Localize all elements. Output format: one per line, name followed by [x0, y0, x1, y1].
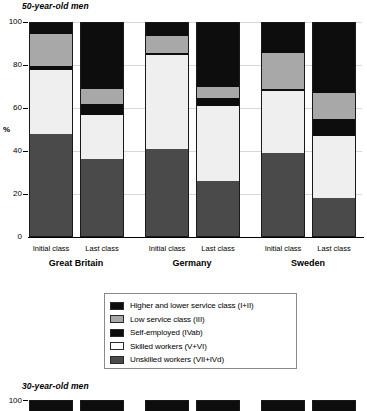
legend-item-unskilled: Unskilled workers (VII+IVd) [110, 353, 296, 366]
legend-swatch-service-high [110, 302, 124, 310]
segment-self-employed [313, 119, 355, 136]
chart-panel-50-year-old-men: 50-year-old men 100 80 60 40 20 0 % [0, 0, 367, 280]
segment-service-low [313, 93, 355, 119]
segment-skilled [146, 55, 188, 149]
ytick-mark-100-panel2 [23, 400, 28, 401]
segment-unskilled [197, 181, 239, 236]
y-axis-label: % [3, 125, 10, 134]
group-label-germany: Germany [132, 258, 252, 268]
legend-swatch-self-employed [110, 329, 124, 337]
segment-service-low [262, 53, 304, 89]
ytick-mark-60 [23, 108, 28, 109]
ytick-label-20: 20 [2, 189, 22, 198]
chart-panel-30-year-old-men: 30-year-old men 100 [0, 378, 367, 411]
plot-area-2 [29, 400, 362, 411]
ytick-label-0: 0 [2, 232, 22, 241]
bar-germany-last-class[interactable] [196, 22, 240, 237]
segment-unskilled [30, 134, 72, 236]
bar2-great-britain-last-class[interactable] [80, 400, 124, 411]
ytick-label-100-panel2: 100 [2, 396, 22, 405]
bar-sweden-initial-class[interactable] [261, 22, 305, 237]
legend-swatch-service-low [110, 315, 124, 323]
segment-service-high [30, 23, 72, 34]
ytick-label-80: 80 [2, 60, 22, 69]
bar2-sweden-last-class[interactable] [312, 400, 356, 411]
segment-unskilled [81, 159, 123, 236]
segment-unskilled [146, 149, 188, 236]
bar-great-britain-initial-class[interactable] [29, 22, 73, 237]
panel-title: 50-year-old men [22, 1, 89, 11]
panel-title-2: 30-year-old men [22, 381, 89, 391]
segment-service-high [313, 23, 355, 93]
bar-great-britain-last-class[interactable] [80, 22, 124, 237]
segment-service-high [146, 23, 188, 36]
segment-skilled [81, 115, 123, 160]
legend-swatch-unskilled [110, 356, 124, 364]
legend-item-skilled: Skilled workers (V+VI) [110, 340, 296, 353]
ytick-mark-100 [23, 22, 28, 23]
bar2-germany-last-class[interactable] [196, 400, 240, 411]
ytick-label-60: 60 [2, 103, 22, 112]
legend-label-service-high: Higher and lower service class (I+II) [130, 301, 254, 310]
ytick-label-100: 100 [2, 17, 22, 26]
xtick-label-de-last: Last class [187, 244, 249, 253]
plot-area [29, 22, 362, 237]
bar2-germany-initial-class[interactable] [145, 400, 189, 411]
legend-item-service-low: Low service class (III) [110, 313, 296, 326]
legend-item-service-high: Higher and lower service class (I+II) [110, 299, 296, 312]
ytick-mark-20 [23, 194, 28, 195]
group-label-sweden: Sweden [248, 258, 367, 268]
segment-service-high [197, 23, 239, 87]
legend-item-self-employed: Self-employed (IVab) [110, 326, 296, 339]
legend-label-self-employed: Self-employed (IVab) [130, 328, 203, 337]
bar-sweden-last-class[interactable] [312, 22, 356, 237]
segment-self-employed [81, 104, 123, 115]
segment-skilled [197, 106, 239, 181]
segment-service-low [30, 34, 72, 66]
segment-service-low [81, 89, 123, 104]
segment-skilled [30, 70, 72, 134]
legend-label-service-low: Low service class (III) [130, 315, 205, 324]
segment-unskilled [313, 198, 355, 236]
segment-self-employed [197, 98, 239, 107]
legend-label-skilled: Skilled workers (V+VI) [130, 342, 207, 351]
group-label-great-britain: Great Britain [16, 258, 136, 268]
segment-service-low [146, 36, 188, 53]
segment-unskilled [262, 153, 304, 236]
legend-swatch-skilled [110, 342, 124, 350]
segment-skilled [262, 91, 304, 153]
xtick-label-se-last: Last class [303, 244, 365, 253]
x-axis-line [28, 237, 364, 238]
segment-service-high [262, 23, 304, 53]
segment-service-high [81, 23, 123, 89]
ytick-mark-40 [23, 151, 28, 152]
segment-service-low [197, 87, 239, 98]
bar2-great-britain-initial-class[interactable] [29, 400, 73, 411]
bar2-sweden-initial-class[interactable] [261, 400, 305, 411]
ytick-label-40: 40 [2, 146, 22, 155]
chart-legend: Higher and lower service class (I+II) Lo… [104, 293, 297, 369]
ytick-mark-80 [23, 65, 28, 66]
bar-germany-initial-class[interactable] [145, 22, 189, 237]
legend-label-unskilled: Unskilled workers (VII+IVd) [130, 355, 224, 364]
xtick-label-gb-last: Last class [71, 244, 133, 253]
segment-skilled [313, 136, 355, 198]
